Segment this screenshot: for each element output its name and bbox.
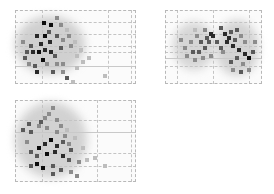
panel-frame <box>165 10 262 84</box>
panel-frame <box>15 10 136 84</box>
panel-frame <box>15 100 136 182</box>
sagittal-projection-panel <box>15 10 136 84</box>
coronal-projection-panel <box>165 10 262 84</box>
axial-projection-panel <box>15 100 136 182</box>
